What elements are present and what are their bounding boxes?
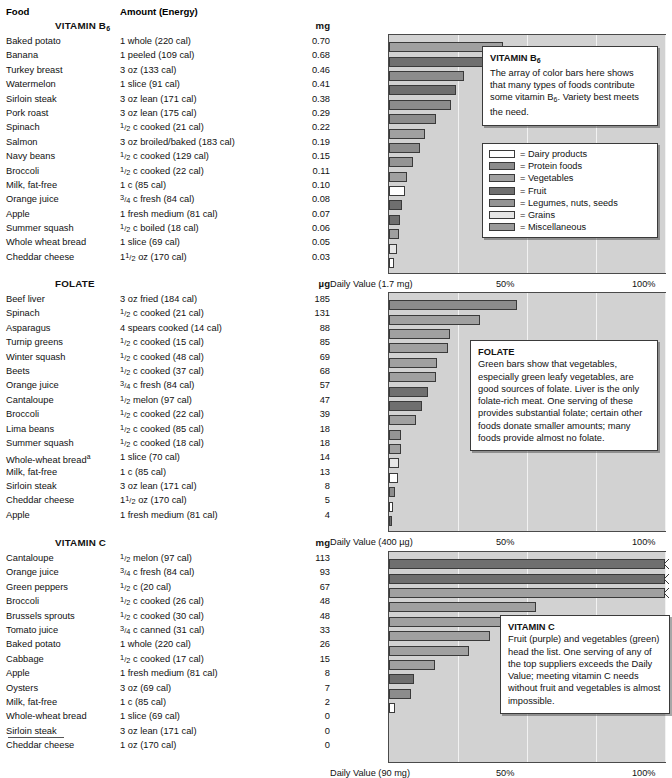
food-amount: 1/2 c cooked (22 cal) (120, 407, 204, 422)
food-amount: 1/2 melon (97 cal) (120, 551, 192, 566)
section-title: VITAMIN B6 (55, 20, 110, 32)
bar (389, 71, 464, 81)
table-row: Whole wheat bread1 slice (69 cal)0.05 (0, 235, 334, 249)
axis-tick-50: 50% (496, 768, 514, 778)
table-row: Orange juice3/4 c fresh (84 cal)57 (0, 378, 334, 392)
nutrient-value: 0.38 (286, 92, 330, 106)
bar (389, 315, 480, 325)
nutrient-value: 15 (286, 652, 330, 666)
section-title: VITAMIN C (55, 537, 106, 548)
nutrient-value: 18 (286, 422, 330, 436)
table-row: Cabbage1/2 c cooked (17 cal)15 (0, 652, 334, 666)
food-amount: 1 oz (170 cal) (120, 738, 176, 752)
food-name: Apple (6, 508, 30, 522)
food-amount: 1 fresh medium (81 cal) (120, 207, 218, 221)
section-title: FOLATE (55, 278, 95, 289)
bar-track (389, 571, 665, 585)
bar-track (389, 499, 665, 513)
table-row: Sirloin steak3 oz lean (171 cal)0 (0, 724, 334, 738)
legend-label: = Fruit (520, 186, 546, 196)
table-row: Cheddar cheese11/2 oz (170 cal)5 (0, 493, 334, 507)
food-name: Apple (6, 666, 30, 680)
table-row: Beets1/2 c cooked (37 cal)68 (0, 364, 334, 378)
bar-track (389, 557, 665, 571)
bar-track (389, 485, 665, 499)
legend-swatch-misc (489, 223, 515, 231)
food-amount: 1 slice (69 cal) (120, 709, 180, 723)
table-row: Baked potato1 whole (220 cal)0.70 (0, 34, 334, 48)
food-name: Orange juice (6, 378, 59, 392)
nutrient-value: 0.46 (286, 63, 330, 77)
bar-track (389, 514, 665, 528)
callout-title: VITAMIN C (508, 621, 662, 633)
nutrient-value: 185 (286, 292, 330, 306)
bar (389, 300, 517, 310)
food-name: Oysters (6, 681, 38, 695)
food-name: Baked potato (6, 34, 61, 48)
food-name: Lima beans (6, 422, 54, 436)
nutrient-value: 0.41 (286, 77, 330, 91)
callout-b6: VITAMIN B6The array of color bars here s… (482, 46, 658, 126)
bar (389, 574, 665, 584)
bar (389, 129, 425, 139)
legend-swatch-protein (489, 162, 515, 170)
food-amount: 1 c (85 cal) (120, 695, 166, 709)
nutrient-value: 2 (286, 695, 330, 709)
food-name: Orange juice (6, 192, 59, 206)
callout-folate: FOLATEGreen bars show that vegetables, e… (470, 340, 658, 451)
bar-track (389, 586, 665, 600)
table-row: Milk, fat-free1 c (85 cal)13 (0, 465, 334, 479)
callout-title: VITAMIN B6 (490, 52, 650, 67)
food-amount: 1/2 c cooked (17 cal) (120, 652, 204, 667)
table-row: Green peppers1/2 c (20 cal)67 (0, 580, 334, 594)
bar (389, 430, 401, 440)
food-amount: 1 slice (91 cal) (120, 77, 180, 91)
nutrient-value: 0.03 (286, 250, 330, 264)
food-amount: 3/4 c fresh (84 cal) (120, 565, 194, 580)
nutrient-value: 0.06 (286, 221, 330, 235)
food-amount: 1 peeled (109 cal) (120, 48, 194, 62)
table-row: Summer squash1/2 c boiled (18 cal)0.06 (0, 221, 334, 235)
food-name: Beef liver (6, 292, 45, 306)
nutrient-value: 0.19 (286, 135, 330, 149)
nutrient-value: 0 (286, 738, 330, 752)
table-row: Summer squash1/2 c cooked (18 cal)18 (0, 436, 334, 450)
nutrient-value: 0.15 (286, 149, 330, 163)
food-name: Whole-wheat bread (6, 709, 87, 723)
unit-label: mg (286, 20, 330, 31)
food-amount: 3 oz lean (175 cal) (120, 106, 197, 120)
nutrient-value: 67 (286, 580, 330, 594)
table-row: Pork roast3 oz lean (175 cal)0.29 (0, 106, 334, 120)
food-name: Sirloin steak (6, 92, 57, 106)
bar (389, 660, 435, 670)
food-amount: 3/4 c fresh (84 cal) (120, 192, 194, 207)
bar-track (389, 312, 665, 326)
nutrient-value: 0.05 (286, 235, 330, 249)
table-row: Sirloin steak3 oz lean (171 cal)8 (0, 479, 334, 493)
food-amount: 1 fresh medium (81 cal) (120, 508, 218, 522)
food-name: Milk, fat-free (6, 465, 57, 479)
food-name: Turnip greens (6, 335, 63, 349)
bar (389, 502, 393, 512)
legend-label: = Protein foods (520, 161, 582, 171)
bar (389, 100, 451, 110)
table-row: Orange juice3/4 c fresh (84 cal)0.08 (0, 192, 334, 206)
bar (389, 487, 395, 497)
bar (389, 258, 394, 268)
food-name: Baked potato (6, 637, 61, 651)
unit-label: µg (286, 278, 330, 289)
food-amount: 3 oz broiled/baked (183 cal) (120, 135, 235, 149)
food-name: Summer squash (6, 221, 74, 235)
table-row: Salmon3 oz broiled/baked (183 cal)0.19 (0, 135, 334, 149)
table-row: Baked potato1 whole (220 cal)26 (0, 637, 334, 651)
nutrient-value: 5 (286, 493, 330, 507)
nutrient-value: 85 (286, 335, 330, 349)
food-name: Cabbage (6, 652, 44, 666)
food-name: Milk, fat-free (6, 178, 57, 192)
axis-daily-value: Daily Value (400 µg) (330, 537, 413, 547)
food-name: Watermelon (6, 77, 56, 91)
nutrient-value: 0.29 (286, 106, 330, 120)
food-name: Milk, fat-free (6, 695, 57, 709)
axis-tick-100: 100% (632, 279, 656, 289)
legend-label: = Miscellaneous (520, 222, 586, 232)
